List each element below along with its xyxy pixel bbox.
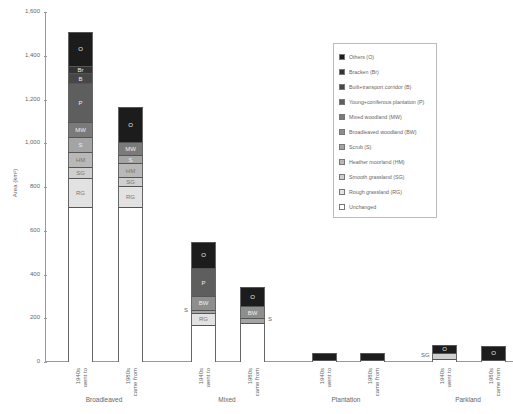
legend-item: Scrub (S) [339,143,371,151]
legend-swatch-icon [339,144,345,150]
bar-segment: BW [191,296,216,309]
legend-label: Unchanged [349,204,376,210]
legend-label: Scrub (S) [349,144,371,150]
y-tick-mark [44,275,47,276]
bar-segment: O [481,346,506,360]
y-tick-mark [44,187,47,188]
bar-segment: MW [118,142,143,155]
legend-swatch-icon [339,159,345,165]
legend-swatch-icon [339,204,345,210]
bar-segment: B [68,73,93,83]
bar-segment: BW [240,306,265,318]
legend-item: Others (O) [339,53,374,61]
bar-segment: HM [68,152,93,167]
y-tick-label: 1,000 [6,139,40,145]
y-tick-label: 0 [6,358,40,364]
y-tick-mark [44,12,47,13]
legend-item: Mixed woodland (MW) [339,113,402,121]
legend-label: Young+coniferous plantation (P) [349,99,424,105]
y-tick-label: 800 [6,183,40,189]
bar-segment: HM [118,163,143,177]
legend-label: Smooth grassland (SG) [349,174,404,180]
legend-item: Smooth grassland (SG) [339,173,404,181]
legend-item: Heather moorland (HM) [339,158,405,166]
legend-label: Others (O) [349,54,374,60]
bar-segment: S [118,155,143,163]
bar-segment [312,353,337,360]
bar-segment: SG [118,177,143,186]
y-tick-label: 1,200 [6,96,40,102]
legend-label: Heather moorland (HM) [349,159,405,165]
bar-segment: O [68,32,93,66]
bar-segment: RG [118,186,143,207]
y-tick-mark [44,231,47,232]
legend-swatch-icon [339,54,345,60]
y-tick-mark [44,362,47,363]
bar-segment [240,323,265,362]
bar-segment [240,318,265,322]
y-tick-mark [44,100,47,101]
bar-segment: O [432,345,457,354]
bar-segment: RG [68,178,93,206]
bar-segment [481,360,506,362]
legend-swatch-icon [339,189,345,195]
bar-segment: MW [68,122,93,136]
y-tick-label: 600 [6,227,40,233]
legend-item: Bracken (Br) [339,68,379,76]
bar-segment [432,353,457,358]
bar-segment: O [118,107,143,142]
y-tick-mark [44,318,47,319]
legend-item: Rough grassland (RG) [339,188,402,196]
bar-segment: P [68,83,93,122]
legend: Others (O)Bracken (Br)Built+transport co… [333,43,437,218]
segment-annotation: SG [421,352,430,358]
segment-annotation: S [268,316,272,322]
legend-label: Rough grassland (RG) [349,189,402,195]
bar-segment [191,325,216,362]
y-tick-mark [44,56,47,57]
legend-swatch-icon [339,174,345,180]
legend-label: Broadleaved woodland (BW) [349,129,416,135]
bar-segment [312,360,337,362]
y-tick-label: 1,600 [6,8,40,14]
legend-item: Young+coniferous plantation (P) [339,98,424,106]
group-label: Parkland [428,396,508,403]
legend-item: Unchanged [339,203,376,211]
segment-annotation: S [184,307,188,313]
legend-label: Built+transport corridor (B) [349,84,411,90]
y-tick-label: 200 [6,314,40,320]
legend-swatch-icon [339,129,345,135]
bar-segment: RG [191,313,216,325]
bar-segment [118,207,143,362]
bar-segment: O [191,242,216,268]
bar-segment [432,359,457,362]
group-label: Broadleaved [64,396,144,403]
y-tick-label: 1,400 [6,52,40,58]
y-tick-label: 400 [6,271,40,277]
bar-segment [360,353,385,360]
y-tick-mark [44,143,47,144]
stacked-bar-chart: Area (km²) 02004006008001,0001,2001,4001… [0,0,513,414]
bar-segment [68,207,93,362]
legend-label: Mixed woodland (MW) [349,114,402,120]
bar-segment: O [240,287,265,307]
group-label: Plantation [306,396,386,403]
bar-segment [191,310,216,313]
bar-segment [360,360,385,362]
legend-swatch-icon [339,99,345,105]
bar-segment: S [68,137,93,152]
bar-segment: SG [68,167,93,178]
legend-swatch-icon [339,84,345,90]
bar-segment: Br [68,66,93,74]
legend-label: Bracken (Br) [349,69,379,75]
legend-item: Built+transport corridor (B) [339,83,411,91]
bar-segment: P [191,268,216,296]
legend-swatch-icon [339,114,345,120]
legend-swatch-icon [339,69,345,75]
group-label: Mixed [187,396,267,403]
legend-item: Broadleaved woodland (BW) [339,128,416,136]
